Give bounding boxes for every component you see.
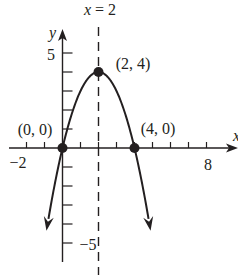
point-label-vertex: (2, 4) xyxy=(116,55,151,73)
point-vertex xyxy=(94,67,104,77)
y-tick-label-5: 5 xyxy=(47,46,55,63)
x-axis xyxy=(9,142,238,153)
point-label-x-intercept: (4, 0) xyxy=(141,120,176,138)
x-axis-label: x xyxy=(232,127,238,144)
x-tick-label-8: 8 xyxy=(204,156,212,173)
point-x-intercept xyxy=(130,143,140,153)
point-label-origin: (0, 0) xyxy=(18,121,53,139)
parabola-graph: x = 2 y x 5 −5 −2 8 (0, 0) (2, 4) (4, 0) xyxy=(0,0,238,275)
x-tick-label-neg2: −2 xyxy=(9,154,26,171)
y-tick-label-neg5: −5 xyxy=(79,236,96,253)
point-origin xyxy=(58,143,68,153)
axis-of-symmetry-label: x = 2 xyxy=(83,1,116,18)
y-axis-label: y xyxy=(47,24,57,42)
